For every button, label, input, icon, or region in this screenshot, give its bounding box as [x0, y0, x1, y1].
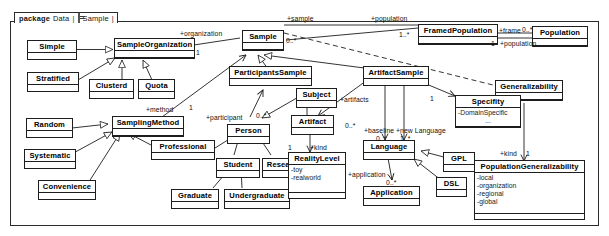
class-sample-organization[interactable]: SampleOrganization: [114, 38, 195, 59]
edge-label-organization: +organization: [180, 30, 222, 38]
class-attributes: [90, 92, 133, 99]
edge-label-kind-population: +kind: [500, 150, 517, 158]
edge-label-artifacts: +artifacts: [340, 96, 369, 104]
class-attributes: [25, 162, 75, 169]
class-language[interactable]: Language: [363, 140, 415, 160]
edge-label-population: +population: [371, 15, 407, 23]
class-name: Population: [533, 27, 587, 39]
class-name: Professional: [152, 141, 214, 153]
class-name: DSL: [437, 178, 466, 190]
attribute-row: -toy: [291, 166, 343, 174]
edge-label-population-2-multiplicity: 1: [491, 40, 495, 48]
class-attributes: [364, 199, 419, 206]
class-name: Clusterd: [90, 80, 133, 92]
edge-label-baseline: +baseline: [364, 127, 394, 135]
edge-label-kind-artifact: +kind: [310, 144, 327, 152]
edge-label-method: +method: [146, 106, 173, 114]
edge-label-method-multiplicity: 1: [189, 104, 193, 112]
edge-label-new-language-multiplicity: 1..*: [400, 135, 411, 143]
class-artifact-sample[interactable]: ArtifactSample: [363, 66, 429, 86]
class-name: Convenience: [39, 181, 95, 193]
package-sep-1: |: [72, 14, 74, 23]
class-systematic[interactable]: Systematic: [24, 149, 76, 169]
class-reality-level[interactable]: RealityLevel -toy -realworld: [288, 152, 346, 199]
class-name: Random: [27, 119, 72, 131]
class-sampling-method[interactable]: SamplingMethod: [112, 116, 184, 137]
class-random[interactable]: Random: [26, 118, 73, 138]
class-name: Simple: [28, 41, 76, 53]
package-sep-2: |: [112, 14, 114, 23]
class-clusterd[interactable]: Clusterd: [89, 79, 134, 99]
edge-label-kind-population-multiplicity: 1: [526, 150, 530, 158]
class-attributes: [297, 101, 336, 108]
edge-label-baseline-multiplicity: 0..*: [376, 135, 387, 143]
class-name: Graduate: [172, 190, 218, 202]
class-attributes: [217, 171, 259, 178]
class-attributes: [225, 202, 289, 209]
class-participants-sample[interactable]: ParticipantsSample: [229, 66, 312, 86]
class-professional[interactable]: Professional: [151, 140, 215, 160]
attribute-row: ...: [458, 117, 518, 125]
class-student[interactable]: Student: [216, 158, 260, 178]
edge-label-participant: +participant: [206, 114, 243, 122]
attribute-row: -global: [477, 198, 582, 206]
class-attributes: [243, 43, 283, 50]
class-dsl[interactable]: DSL: [436, 177, 467, 197]
edge-label-organization-multiplicity: 1: [196, 49, 200, 57]
class-attributes: [419, 37, 497, 44]
class-name: Subject: [297, 89, 336, 101]
edge-label-sample: +sample: [287, 15, 314, 23]
class-attributes: [364, 153, 414, 160]
class-attributes: -toy -realworld: [289, 165, 345, 193]
package-path-leaf: Sample: [83, 14, 109, 23]
class-specifity[interactable]: Specifity -DomainSpecific ...: [455, 95, 521, 128]
class-framed-population[interactable]: FramedPopulation: [418, 24, 498, 45]
class-attributes: [115, 51, 194, 58]
class-attributes: [292, 128, 333, 135]
class-name: FramedPopulation: [419, 25, 497, 37]
class-gpl[interactable]: GPL: [443, 152, 475, 172]
edge-label-population-2: +population: [500, 40, 536, 48]
class-attributes: [139, 92, 174, 99]
class-population-generalizability[interactable]: PopulationGeneralizability -local -organ…: [474, 160, 585, 220]
class-attributes: [172, 202, 218, 209]
edge-label-population-multiplicity: 1..*: [399, 31, 410, 39]
class-attributes: [39, 193, 95, 200]
edge-label-kind-artifact-multiplicity: 1: [288, 144, 292, 152]
class-quota[interactable]: Quota: [138, 79, 175, 99]
class-convenience[interactable]: Convenience: [38, 180, 96, 200]
class-name: SampleOrganization: [115, 39, 194, 51]
edge-label-artifacts-multiplicity: 0..*: [345, 122, 356, 130]
attribute-row: -DomainSpecific: [458, 109, 518, 117]
class-person[interactable]: Person: [227, 124, 270, 144]
attribute-row: -realworld: [291, 174, 343, 182]
class-name: RealityLevel: [289, 153, 345, 165]
class-attributes: [533, 39, 587, 46]
class-graduate[interactable]: Graduate: [171, 189, 219, 209]
class-name: Application: [364, 187, 419, 199]
edge-label-frame-multiplicity: 0..*: [522, 26, 533, 34]
package-keyword: package: [19, 14, 50, 23]
class-stratified[interactable]: Stratified: [27, 72, 79, 92]
class-name: PopulationGeneralizability: [475, 161, 584, 173]
class-attributes: -local -organization -regional -global: [475, 173, 584, 214]
class-name: GPL: [444, 153, 474, 165]
class-attributes: [152, 153, 214, 160]
class-attributes: [27, 131, 72, 138]
class-simple[interactable]: Simple: [27, 40, 77, 60]
edge-label-participant-multiplicity: 0..*: [256, 112, 267, 120]
class-population[interactable]: Population: [532, 26, 588, 47]
class-name: Quota: [139, 80, 174, 92]
class-operations: [289, 193, 345, 198]
class-undergraduate[interactable]: Undergraduate: [224, 189, 290, 209]
attribute-row: -local: [477, 174, 582, 182]
class-attributes: [230, 79, 311, 86]
class-subject[interactable]: Subject: [296, 88, 337, 108]
edge-label-application: +application: [348, 171, 386, 179]
uml-class-diagram: package Data | Sample |: [0, 0, 609, 236]
class-application[interactable]: Application: [363, 186, 420, 206]
package-icon: [78, 13, 80, 23]
class-artifact[interactable]: Artifact: [291, 115, 334, 135]
class-sample[interactable]: Sample: [242, 30, 284, 51]
class-attributes: [364, 79, 428, 86]
